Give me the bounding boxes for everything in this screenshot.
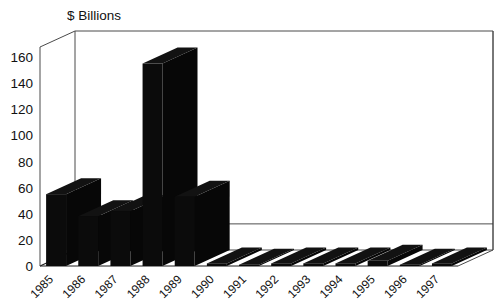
chart-title: $ Billions xyxy=(67,8,121,23)
bar-front-face xyxy=(239,265,259,266)
x-axis-category-label: 1994 xyxy=(317,272,346,301)
x-axis-category-label: 1985 xyxy=(27,272,56,301)
y-axis-tick-label: 120 xyxy=(10,102,33,117)
bar-front-face xyxy=(175,197,195,266)
bar-front-face xyxy=(368,261,388,266)
x-axis-category-label: 1990 xyxy=(188,272,217,301)
y-axis-tick-label: 20 xyxy=(18,233,33,248)
x-axis-category-label: 1986 xyxy=(60,272,89,301)
bar-front-face xyxy=(110,211,130,266)
y-axis-tick-label: 60 xyxy=(18,181,33,196)
y-axis-tick-label: 100 xyxy=(10,128,33,143)
bar-front-face xyxy=(400,265,420,266)
bar-front-face xyxy=(335,263,355,266)
x-axis-category-label: 1991 xyxy=(220,272,249,301)
x-axis-category-label: 1992 xyxy=(252,272,281,301)
chart-container: $ Billions 020406080100120140160 1985198… xyxy=(0,0,504,308)
y-axis-tick-label: 0 xyxy=(25,259,33,274)
y-axis-tick-label: 140 xyxy=(10,76,33,91)
top-left-depth-edge xyxy=(40,31,75,47)
bar-front-face xyxy=(271,263,291,266)
bar-chart-3d: $ Billions 020406080100120140160 1985198… xyxy=(0,0,504,308)
bar-front-face xyxy=(207,263,227,266)
x-axis-category-label: 1997 xyxy=(413,272,442,301)
x-axis-category-label: 1987 xyxy=(92,272,121,301)
y-axis-tick-label: 80 xyxy=(18,155,33,170)
x-axis-category-label: 1996 xyxy=(381,272,410,301)
x-axis-category-labels: 1985198619871988198919901991199219931994… xyxy=(27,272,442,301)
bar-front-face xyxy=(432,263,452,266)
x-axis-category-label: 1988 xyxy=(124,272,153,301)
y-axis-tick-label: 40 xyxy=(18,207,33,222)
bar[interactable] xyxy=(175,181,230,266)
bar-front-face xyxy=(143,64,163,266)
y-axis-tick-labels: 020406080100120140160 xyxy=(10,50,33,274)
bar-front-face xyxy=(46,194,66,266)
y-axis-tick-label: 160 xyxy=(10,50,33,65)
bar-front-face xyxy=(78,216,98,266)
bar-front-face xyxy=(303,263,323,266)
x-axis-category-label: 1995 xyxy=(349,272,378,301)
x-axis-category-label: 1993 xyxy=(285,272,314,301)
x-axis-category-label: 1989 xyxy=(156,272,185,301)
